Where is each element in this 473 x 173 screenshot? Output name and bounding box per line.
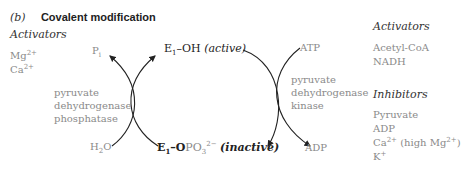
right-activators-list: Acetyl-CoA NADH	[373, 41, 429, 69]
h2o-label: H2O	[90, 140, 111, 154]
inhibitor-k: K+	[373, 150, 461, 164]
panel-label: (b)	[10, 11, 26, 24]
inhibitor-ca: Ca2+ (high Mg2+)	[373, 136, 461, 150]
enzyme-active: E1–OH (active)	[164, 42, 246, 55]
inhibitors-heading: Inhibitors	[373, 88, 428, 101]
left-activators-heading: Activators	[10, 28, 67, 41]
activator-ca: Ca2+	[10, 63, 37, 77]
pi-label: Pi	[92, 44, 101, 58]
enzyme-inactive: E1–OPO32− (inactive)	[157, 141, 279, 154]
right-activators-heading: Activators	[373, 20, 430, 33]
title-text: Covalent modification	[41, 11, 156, 23]
left-activators-list: Mg2+ Ca2+	[10, 49, 37, 77]
inhibitors-list: Pyruvate ADP Ca2+ (high Mg2+) K+	[373, 108, 461, 164]
adp-label: ADP	[305, 141, 327, 155]
activator-mg: Mg2+	[10, 49, 37, 63]
kinase-label: pyruvate dehydrogenase kinase	[291, 73, 368, 112]
figure-title: (b) Covalent modification	[10, 6, 156, 25]
atp-label: ATP	[300, 41, 320, 55]
phosphatase-label: pyruvate dehydrogenase phosphatase	[54, 86, 131, 125]
